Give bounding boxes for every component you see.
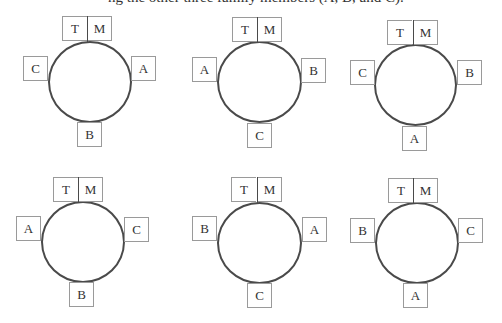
seat-bottom: C (247, 283, 272, 308)
seat-top-right: M (413, 178, 438, 203)
seat-left: A (192, 57, 217, 82)
cropped-caption-text: ng the other three family members (A, B,… (108, 0, 404, 6)
seat-right: B (457, 60, 482, 85)
seat-bottom: B (77, 122, 102, 147)
seat-left: C (23, 56, 48, 81)
seat-top-right: M (78, 177, 103, 202)
tm-divider (413, 178, 415, 203)
tm-divider (257, 17, 259, 42)
tm-divider (413, 20, 415, 45)
tm-divider (87, 16, 89, 42)
seat-top-left: T (232, 17, 257, 42)
seat-bottom: A (403, 283, 428, 308)
tm-divider (78, 177, 80, 202)
seat-top-left: T (388, 178, 413, 203)
seat-right: B (301, 58, 326, 83)
seat-top-right: M (87, 16, 112, 41)
round-table (217, 41, 302, 123)
seat-top-left: T (53, 177, 78, 202)
round-table (374, 44, 457, 126)
seat-bottom: B (69, 282, 94, 307)
seat-top-left: T (62, 16, 87, 41)
seat-right: A (302, 217, 327, 242)
seat-top-right: M (257, 177, 282, 202)
seat-left: C (350, 60, 375, 85)
seat-left: B (192, 216, 217, 241)
seat-left: A (16, 216, 41, 241)
round-table (375, 202, 459, 284)
round-table (217, 202, 302, 284)
seat-bottom: C (247, 123, 272, 148)
seat-top-left: T (387, 20, 412, 45)
seat-bottom: A (402, 126, 427, 151)
caption-clip: ng the other three family members (A, B,… (0, 0, 502, 8)
seat-top-right: M (413, 20, 438, 45)
seat-right: A (131, 56, 156, 81)
seat-right: C (124, 217, 149, 242)
round-table (48, 41, 132, 123)
seat-top-right: M (257, 17, 282, 42)
seat-top-left: T (231, 177, 256, 202)
tm-divider (257, 177, 259, 203)
seat-right: C (458, 218, 483, 243)
seat-left: B (350, 218, 375, 243)
round-table (41, 201, 125, 283)
